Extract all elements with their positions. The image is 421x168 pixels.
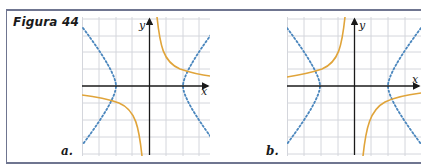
x-axis-label-b: x	[412, 73, 418, 86]
orange-hyperbola-q4-b	[363, 93, 421, 156]
orange-hyperbola-q2-b	[287, 17, 345, 77]
panel-label-b: b.	[266, 144, 279, 158]
y-axis-label-b: y	[359, 19, 365, 32]
graph-panel-b	[0, 0, 421, 168]
